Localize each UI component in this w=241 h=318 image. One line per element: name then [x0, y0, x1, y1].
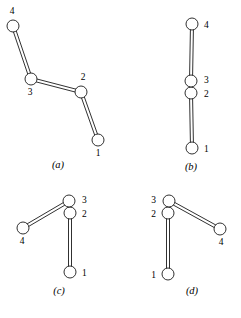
joint-label-4: 4 — [204, 20, 209, 30]
link-3-4 — [190, 24, 194, 81]
panel-caption-a: (a) — [52, 159, 65, 171]
joint-3 — [163, 195, 175, 207]
linkage-figure: 1234(a)1234(b)1234(c)1234(d) — [0, 0, 241, 318]
link-3-4 — [12, 26, 33, 80]
joint-1 — [186, 142, 198, 154]
figure-canvas: 1234(a)1234(b)1234(c)1234(d) — [0, 0, 241, 318]
panel-b: 1234(b) — [185, 18, 209, 173]
joint-4 — [7, 20, 19, 32]
joint-3 — [63, 195, 75, 207]
joint-label-1: 1 — [82, 268, 87, 278]
panel-a: 1234(a) — [7, 6, 104, 171]
joint-label-3: 3 — [82, 195, 87, 205]
link-1-2 — [80, 92, 100, 141]
joint-3 — [185, 75, 197, 87]
joint-label-1: 1 — [151, 270, 156, 280]
joint-4 — [214, 223, 226, 235]
joint-label-4: 4 — [219, 237, 224, 247]
joint-label-3: 3 — [28, 87, 33, 97]
joint-label-2: 2 — [204, 89, 209, 99]
joint-2 — [64, 207, 76, 219]
panel-caption-d: (d) — [186, 285, 199, 297]
joint-label-2: 2 — [81, 72, 86, 82]
joint-3 — [25, 73, 37, 85]
link-1-2 — [167, 213, 170, 274]
joint-1 — [162, 268, 174, 280]
panel-caption-c: (c) — [53, 285, 65, 297]
joint-label-3: 3 — [151, 195, 156, 205]
link-3-4 — [168, 200, 220, 231]
joint-label-2: 2 — [151, 209, 156, 219]
joint-label-1: 1 — [96, 148, 101, 158]
joint-2 — [75, 86, 87, 98]
joint-label-3: 3 — [204, 75, 209, 85]
link-2-3 — [31, 78, 82, 94]
link-1-2 — [190, 93, 194, 148]
joint-label-1: 1 — [204, 144, 209, 154]
joint-1 — [92, 134, 104, 146]
link-3-4 — [22, 200, 70, 230]
panel-c: 1234(c) — [17, 195, 87, 297]
panel-caption-b: (b) — [185, 161, 198, 173]
joint-2 — [162, 207, 174, 219]
joint-label-4: 4 — [20, 236, 25, 246]
joint-label-2: 2 — [82, 209, 87, 219]
joint-4 — [17, 222, 29, 234]
joint-4 — [186, 18, 198, 30]
link-1-2 — [69, 213, 72, 272]
joint-label-4: 4 — [10, 6, 15, 16]
panel-d: 1234(d) — [151, 195, 226, 297]
joint-2 — [185, 87, 197, 99]
joint-1 — [64, 266, 76, 278]
